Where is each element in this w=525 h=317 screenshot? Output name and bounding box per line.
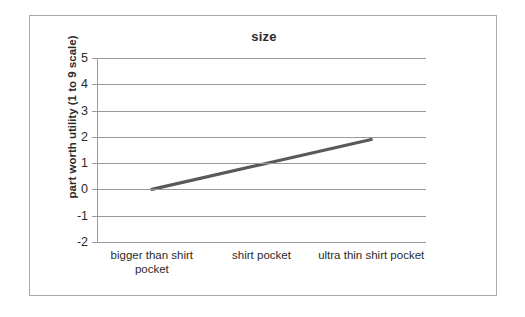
chart-figure: size part worth utility (1 to 9 scale) 5…	[0, 0, 525, 317]
gridline-y--2	[97, 242, 426, 243]
gridline-y-2	[97, 137, 426, 138]
y-tick-label--1: -1	[42, 210, 88, 223]
y-tick-label--2: -2	[42, 236, 88, 249]
chart-title: size	[30, 29, 498, 44]
y-axis-tick-labels: 543210-1-2	[30, 16, 88, 297]
gridline-y-4	[97, 84, 426, 85]
y-tick-label-2: 2	[42, 131, 88, 144]
y-tick-label-3: 3	[42, 105, 88, 118]
series-line-size	[97, 58, 426, 242]
x-category-label-1: shirt pocket	[207, 248, 317, 276]
y-tick-label-5: 5	[42, 52, 88, 65]
y-tick-label-0: 0	[42, 183, 88, 196]
x-category-label-0: bigger than shirt pocket	[97, 248, 207, 276]
gridline-y-0	[97, 189, 426, 190]
x-axis-category-labels: bigger than shirt pocketshirt pocketultr…	[97, 248, 426, 276]
y-tick-label-4: 4	[42, 78, 88, 91]
x-category-label-2: ultra thin shirt pocket	[316, 248, 426, 276]
y-tick-label-1: 1	[42, 157, 88, 170]
gridline-y-3	[97, 111, 426, 112]
gridline-y-5	[97, 58, 426, 59]
chart-frame: size part worth utility (1 to 9 scale) 5…	[29, 15, 497, 296]
gridline-y-1	[97, 163, 426, 164]
gridline-y--1	[97, 216, 426, 217]
plot-area	[97, 58, 426, 242]
series-polyline	[152, 139, 371, 189]
